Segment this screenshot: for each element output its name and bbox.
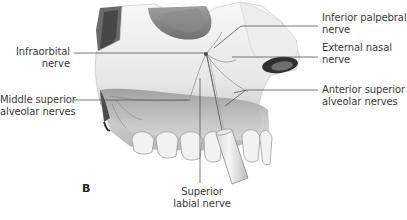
infraorbital-foramen [204,52,208,56]
label-line: Infraorbital [2,46,70,58]
tooth [132,132,154,154]
label-line: Superior [170,186,234,198]
label-line: nerve [2,58,70,70]
label-middle-superior-alveolar-nerves: Middle superior alveolar nerves [0,94,70,118]
label-line: labial nerve [170,198,234,210]
label-anterior-superior-alveolar-nerves: Anterior superior alveolar nerves [322,84,405,108]
label-line: alveolar nerves [0,106,70,118]
label-infraorbital-nerve: Infraorbital nerve [2,46,70,70]
tooth [180,132,202,160]
label-line: External nasal [322,42,392,54]
tooth [260,131,272,165]
label-line: Middle superior [0,94,70,106]
tooth [242,130,260,162]
label-external-nasal-nerve: External nasal nerve [322,42,392,66]
label-line: nerve [322,54,392,66]
tooth [156,132,178,158]
label-inferior-palpebral-nerve: Inferior palpebral nerve [322,12,407,36]
label-line: Anterior superior [322,84,405,96]
label-line: alveolar nerves [322,96,405,108]
label-superior-labial-nerve: Superior labial nerve [170,186,234,210]
label-line: nerve [322,24,407,36]
label-line: Inferior palpebral [322,12,407,24]
panel-letter: B [82,182,90,195]
